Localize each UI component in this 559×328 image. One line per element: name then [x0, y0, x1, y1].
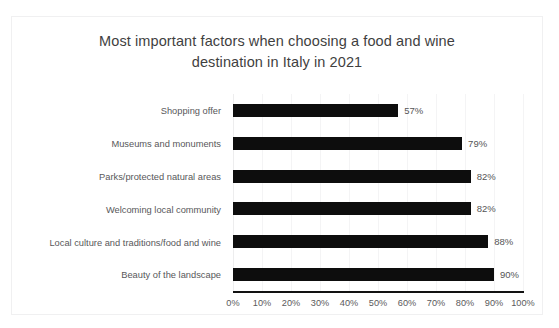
x-tick-label-20: 20% — [282, 296, 300, 310]
x-tick-label-70: 70% — [427, 296, 445, 310]
x-tick-label-100: 100% — [511, 296, 535, 310]
chart-title-line-1: Most important factors when choosing a f… — [12, 31, 542, 52]
x-tick-label-60: 60% — [398, 296, 416, 310]
bar-value-label: 88% — [494, 232, 513, 251]
category-label: Local culture and traditions/food and wi… — [49, 238, 227, 248]
category-label: Beauty of the landscape — [121, 270, 227, 280]
chart-title: Most important factors when choosing a f… — [12, 31, 542, 73]
x-tick-label-80: 80% — [456, 296, 474, 310]
category-label: Welcoming local community — [106, 205, 227, 215]
x-axis-tick-labels: 0%10%20%30%40%50%60%70%80%90%100% — [233, 296, 523, 312]
category-axis-labels: Shopping offerMuseums and monumentsParks… — [12, 94, 227, 291]
category-label-row: Welcoming local community — [12, 192, 227, 225]
x-tick-label-0: 0% — [226, 296, 239, 310]
bar-row[interactable]: 82% — [233, 160, 523, 193]
category-label-row: Museums and monuments — [12, 127, 227, 160]
bar-value-label: 79% — [468, 134, 487, 153]
bar-value-label: 57% — [404, 101, 423, 120]
bar-value-label: 90% — [500, 265, 519, 284]
bar[interactable] — [233, 104, 398, 117]
bar-row[interactable]: 79% — [233, 127, 523, 160]
category-label: Shopping offer — [161, 106, 227, 116]
category-label-row: Beauty of the landscape — [12, 258, 227, 291]
x-axis-line — [233, 291, 524, 293]
category-label-row: Parks/protected natural areas — [12, 160, 227, 193]
bar[interactable] — [233, 170, 471, 183]
bar-value-label: 82% — [477, 199, 496, 218]
bar[interactable] — [233, 202, 471, 215]
bar-value-label: 82% — [477, 167, 496, 186]
x-tick-label-30: 30% — [311, 296, 329, 310]
category-label: Parks/protected natural areas — [99, 172, 227, 182]
x-tick-label-50: 50% — [369, 296, 387, 310]
x-tick-label-40: 40% — [340, 296, 358, 310]
bar-row[interactable]: 57% — [233, 94, 523, 127]
bar-row[interactable]: 82% — [233, 192, 523, 225]
category-label-row: Local culture and traditions/food and wi… — [12, 225, 227, 258]
bar-row[interactable]: 88% — [233, 225, 523, 258]
x-tick-label-10: 10% — [253, 296, 271, 310]
gridline-100 — [523, 94, 524, 291]
plot-area: 57%79%82%82%88%90% — [233, 94, 523, 291]
bar[interactable] — [233, 235, 488, 248]
bar[interactable] — [233, 137, 462, 150]
bar-row[interactable]: 90% — [233, 258, 523, 291]
x-tick-label-90: 90% — [485, 296, 503, 310]
category-label-row: Shopping offer — [12, 94, 227, 127]
chart-title-line-2: destination in Italy in 2021 — [12, 52, 542, 73]
bar[interactable] — [233, 268, 494, 281]
category-label: Museums and monuments — [111, 139, 227, 149]
chart-container: Most important factors when choosing a f… — [11, 16, 543, 315]
